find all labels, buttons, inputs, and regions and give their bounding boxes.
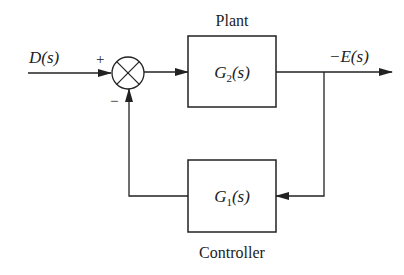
block-diagram: D(s) + − Plant G2(s) −E(s) G1(s) Control…: [0, 0, 404, 275]
plant-transfer-function: G2(s): [214, 63, 250, 84]
controller-to-junction-line: [129, 89, 188, 196]
plant-title: Plant: [216, 12, 249, 29]
minus-sign: −: [110, 93, 118, 109]
feedback-branch-line: [276, 72, 324, 196]
controller-title: Controller: [199, 244, 265, 261]
controller-transfer-function: G1(s): [214, 187, 250, 208]
plus-sign: +: [96, 51, 104, 67]
input-label: D(s): [28, 48, 60, 67]
output-label: −E(s): [329, 47, 369, 66]
summing-junction: [112, 57, 144, 89]
